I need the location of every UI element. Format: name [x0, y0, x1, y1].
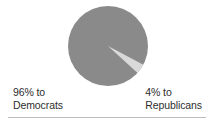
label-democrats-percent: 96% to	[13, 86, 63, 99]
label-republicans: 4% to Republicans	[145, 86, 202, 112]
label-democrats-name: Democrats	[13, 99, 63, 112]
pie-chart-area	[0, 0, 214, 90]
pie-chart-svg	[0, 0, 214, 90]
label-republicans-name: Republicans	[145, 99, 202, 112]
label-democrats: 96% to Democrats	[13, 86, 63, 112]
pie-chart-figure: 96% to Democrats 4% to Republicans	[0, 0, 214, 125]
label-republicans-percent: 4% to	[145, 86, 202, 99]
pie-chart-labels: 96% to Democrats 4% to Republicans	[0, 86, 214, 116]
bottom-divider	[8, 117, 206, 118]
